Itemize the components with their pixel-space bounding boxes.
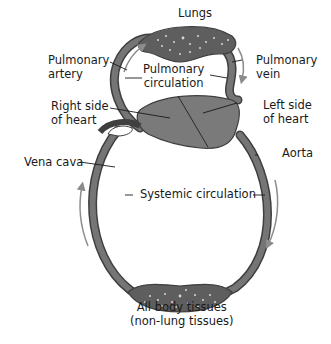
diagram-graphics xyxy=(0,0,331,344)
lung-capillary-bed xyxy=(138,27,235,62)
label-pulmonary-artery: Pulmonary artery xyxy=(48,53,109,81)
label-pulmonary-vein-line1: Pulmonary xyxy=(256,53,317,67)
label-body-tissues-line1: All body tissues xyxy=(130,300,234,314)
pulmonary-vein-arrow-icon xyxy=(238,48,244,80)
label-pulmonary-artery-line1: Pulmonary xyxy=(48,53,109,67)
label-pulmonary-vein-line2: vein xyxy=(256,67,317,81)
label-left-heart-line1: Left side xyxy=(263,98,312,112)
label-aorta: Aorta xyxy=(282,146,313,160)
label-systemic-circulation: Systemic circulation xyxy=(140,187,256,201)
label-pulmonary-artery-line2: artery xyxy=(48,67,109,81)
label-vena-cava: Vena cava xyxy=(24,155,83,169)
label-right-heart-line1: Right side xyxy=(51,99,109,113)
circulation-diagram: Lungs Pulmonary artery Pulmonary circula… xyxy=(0,0,331,344)
label-right-heart-line2: of heart xyxy=(51,113,109,127)
label-pulmonary-circulation: Pulmonary circulation xyxy=(143,62,204,90)
label-left-side-of-heart: Left side of heart xyxy=(263,98,312,126)
label-lungs: Lungs xyxy=(178,6,212,20)
systemic-loop xyxy=(93,130,268,304)
label-pulmonary-circulation-line1: Pulmonary xyxy=(143,62,204,76)
vena-cava-arrow-icon xyxy=(80,186,88,246)
label-body-tissues: All body tissues (non-lung tissues) xyxy=(130,300,234,328)
label-pulmonary-vein: Pulmonary vein xyxy=(256,53,317,81)
label-pulmonary-circulation-line2: circulation xyxy=(143,76,204,90)
label-left-heart-line2: of heart xyxy=(263,112,312,126)
label-body-tissues-line2: (non-lung tissues) xyxy=(130,314,234,328)
label-right-side-of-heart: Right side of heart xyxy=(51,99,109,127)
